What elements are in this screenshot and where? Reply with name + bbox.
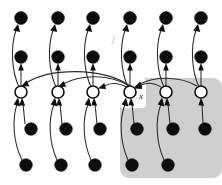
edge-b1-o1 bbox=[14, 104, 22, 160]
node-filled-second-3[interactable] bbox=[87, 51, 100, 64]
node-filled-third-2[interactable] bbox=[60, 123, 73, 136]
node-open-x[interactable] bbox=[124, 86, 136, 98]
node-filled-bottom-1[interactable] bbox=[20, 159, 33, 172]
figure-canvas: x j bbox=[0, 0, 222, 185]
edges-lateral-from-x bbox=[21, 72, 129, 89]
node-filled-third-3[interactable] bbox=[94, 123, 107, 136]
arrowhead-b1-o1 bbox=[14, 98, 21, 107]
node-open-2[interactable] bbox=[52, 86, 64, 98]
arrowhead-o2-s2 bbox=[55, 63, 61, 71]
node-filled-third-5[interactable] bbox=[167, 123, 180, 136]
edge-u2-o2 bbox=[60, 104, 62, 124]
node-filled-second-4[interactable] bbox=[124, 51, 137, 64]
node-open-5[interactable] bbox=[160, 86, 172, 98]
arrowhead-o4-o3 bbox=[98, 83, 106, 89]
arrowhead-o4-s4 bbox=[127, 63, 133, 71]
arrowhead-b3-o3 bbox=[85, 98, 92, 107]
node-filled-bottom-4[interactable] bbox=[126, 159, 139, 172]
edge-u1-o1 bbox=[23, 104, 25, 124]
arrowhead-o5-t5 bbox=[158, 24, 165, 32]
node-filled-third-1[interactable] bbox=[25, 123, 38, 136]
arrowhead-b2-o2 bbox=[51, 98, 58, 107]
arrowhead-o4-t4 bbox=[122, 24, 129, 32]
node-filled-third-6[interactable] bbox=[199, 123, 212, 136]
arrowhead-o1-s1 bbox=[18, 63, 24, 71]
arrowhead-o3-s3 bbox=[90, 63, 96, 71]
node-filled-top-4[interactable] bbox=[124, 12, 137, 25]
node-open-1[interactable] bbox=[15, 86, 27, 98]
node-open-6[interactable] bbox=[195, 86, 207, 98]
node-filled-top-1[interactable] bbox=[15, 12, 28, 25]
edge-b3-o3 bbox=[84, 104, 91, 160]
arrowhead-o3-t3 bbox=[85, 24, 92, 32]
arrowhead-o2-t2 bbox=[50, 24, 57, 32]
node-filled-second-6[interactable] bbox=[195, 51, 208, 64]
nodes-top-row bbox=[15, 12, 208, 25]
label-x: x bbox=[138, 91, 143, 101]
node-filled-top-3[interactable] bbox=[87, 12, 100, 25]
node-filled-second-1[interactable] bbox=[15, 51, 28, 64]
arrowhead-o1-t1 bbox=[13, 24, 20, 32]
node-filled-bottom-2[interactable] bbox=[55, 159, 68, 172]
edge-b2-o2 bbox=[50, 104, 57, 160]
label-j: j bbox=[110, 33, 115, 44]
nodes-second-row bbox=[15, 51, 208, 64]
arrowhead-o6-t6 bbox=[193, 24, 200, 32]
node-open-3[interactable] bbox=[87, 86, 99, 98]
arrowhead-o6-s6 bbox=[198, 63, 204, 71]
node-filled-bottom-3[interactable] bbox=[89, 159, 102, 172]
node-filled-second-2[interactable] bbox=[52, 51, 65, 64]
node-filled-top-2[interactable] bbox=[52, 12, 65, 25]
node-filled-second-5[interactable] bbox=[160, 51, 173, 64]
node-filled-third-4[interactable] bbox=[131, 123, 144, 136]
node-filled-top-5[interactable] bbox=[160, 12, 173, 25]
graph-diagram: x j bbox=[0, 0, 222, 185]
edge-u3-o3 bbox=[95, 104, 97, 124]
arrowhead-o5-s5 bbox=[163, 63, 169, 71]
node-filled-top-6[interactable] bbox=[195, 12, 208, 25]
node-filled-bottom-5[interactable] bbox=[162, 159, 175, 172]
